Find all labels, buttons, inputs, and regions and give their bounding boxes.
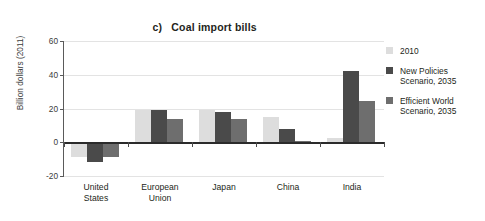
y-axis-tick-label: 40 <box>49 70 58 80</box>
y-axis-tick-label: 0 <box>53 137 58 147</box>
axis-end-tick <box>384 142 385 147</box>
legend-label: Efficient World Scenario, 2035 <box>400 96 456 117</box>
x-axis-label: European Union <box>128 182 192 203</box>
bar <box>71 142 87 157</box>
y-axis-tick <box>60 176 64 177</box>
group-separator-tick <box>192 142 193 147</box>
chart-legend: 2010New Policies Scenario, 2035Efficient… <box>386 46 485 126</box>
plot-area: 6040200-20 <box>64 41 384 176</box>
chart-title-text: Coal import bills <box>171 21 257 33</box>
chart-title-index: c) <box>152 21 162 33</box>
legend-item: New Policies Scenario, 2035 <box>386 66 485 87</box>
legend-swatch <box>386 67 393 74</box>
legend-swatch <box>386 97 393 104</box>
legend-label: New Policies Scenario, 2035 <box>400 66 456 87</box>
y-axis-tick-label: 60 <box>49 36 58 46</box>
bar <box>231 119 247 142</box>
legend-item: 2010 <box>386 46 485 57</box>
legend-item: Efficient World Scenario, 2035 <box>386 96 485 117</box>
bar <box>343 71 359 143</box>
bar <box>135 110 151 143</box>
bar-group <box>192 41 256 176</box>
bar <box>167 119 183 142</box>
x-axis-label: Japan <box>192 182 256 193</box>
chart-title: c)Coal import bills <box>140 9 400 45</box>
bar <box>359 101 375 142</box>
bar-group <box>128 41 192 176</box>
gridline <box>64 176 384 177</box>
bar <box>199 110 215 142</box>
bar-group <box>256 41 320 176</box>
group-separator-tick <box>128 142 129 147</box>
x-axis-label: United States <box>64 182 128 203</box>
bar <box>279 129 295 142</box>
group-separator-tick <box>320 142 321 147</box>
x-axis-label: China <box>256 182 320 193</box>
bar <box>151 110 167 142</box>
x-axis-label: India <box>320 182 384 193</box>
bar-group <box>64 41 128 176</box>
y-axis-tick-label: -20 <box>46 171 58 181</box>
y-axis-title: Billion dollars (2011) <box>15 13 25 133</box>
zero-baseline <box>64 142 384 143</box>
legend-swatch <box>386 47 393 54</box>
bar <box>87 142 103 162</box>
coal-import-bills-chart: c)Coal import bills Billion dollars (201… <box>0 0 485 221</box>
bar <box>263 117 279 142</box>
y-axis-tick-label: 20 <box>49 104 58 114</box>
bar <box>103 142 119 157</box>
group-separator-tick <box>256 142 257 147</box>
bar-group <box>320 41 384 176</box>
bar <box>215 112 231 142</box>
legend-label: 2010 <box>400 46 419 56</box>
axis-end-tick <box>64 142 65 147</box>
